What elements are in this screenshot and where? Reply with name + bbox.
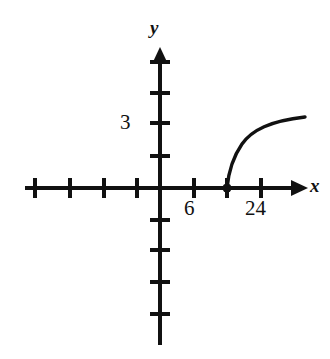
y-axis-group: [150, 47, 170, 345]
x-axis-group: [25, 178, 308, 198]
x-axis-arrowhead: [291, 180, 308, 196]
curve-start-point-marker: [222, 183, 231, 192]
graph-figure: y x 3 6 24: [0, 0, 330, 359]
y-axis-label: y: [150, 18, 158, 37]
coordinate-plane-plot: [0, 0, 330, 359]
x-axis-label: x: [310, 176, 320, 195]
logarithmic-curve: [227, 117, 305, 188]
x-tick-label-24: 24: [245, 198, 266, 219]
x-tick-label-6: 6: [184, 198, 195, 219]
y-tick-label-3: 3: [120, 112, 131, 133]
